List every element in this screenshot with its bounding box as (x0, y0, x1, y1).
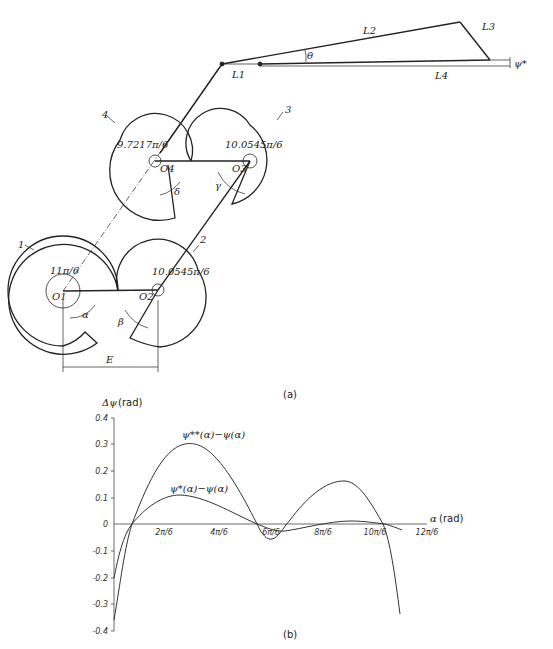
gear-1-angle: 11π/6 (50, 265, 80, 276)
gear-2-number: 2 (199, 234, 206, 245)
label-psi-star: ψ* (514, 58, 527, 69)
x-tick: 4π/6 (210, 528, 228, 537)
y-tick: -0.2 (92, 574, 108, 583)
gear-2-angle: 10.0545π/6 (152, 266, 210, 277)
y-tick: 0.4 (95, 414, 108, 423)
y-axis-unit: (rad) (118, 397, 142, 408)
label-E: E (105, 354, 114, 365)
y-axis-label: Δψ (101, 397, 117, 408)
y-tick-labels: 0.4 0.3 0.2 0.1 0 -0.1 -0.2 -0.3 -0.4 (92, 414, 108, 636)
center-O3: O3 (232, 163, 247, 174)
x-tick: 12π/6 (416, 528, 439, 537)
y-tick: -0.3 (92, 600, 108, 609)
gear-4-profile (110, 113, 193, 220)
gear-4-angle: 9.7217π/6 (117, 139, 169, 150)
label-theta: θ (307, 50, 313, 61)
y-tick: -0.1 (92, 547, 108, 556)
angle-gamma: γ (215, 180, 221, 191)
gear-3-number: 3 (285, 104, 291, 115)
y-tick: 0.1 (95, 494, 108, 503)
x-tick: 2π/6 (155, 528, 173, 537)
angle-beta: β (117, 316, 124, 327)
gear-4-number: 4 (101, 109, 108, 120)
x-axis-label: α (430, 513, 437, 524)
curve2-label: ψ*(α)−ψ(α) (170, 483, 228, 494)
label-L2: L2 (362, 25, 376, 36)
x-axis-unit: (rad) (439, 513, 463, 524)
y-tick: 0 (103, 520, 108, 529)
center-O2: O2 (139, 291, 154, 302)
y-tick: 0.3 (95, 440, 108, 449)
angle-alpha: α (82, 309, 89, 320)
curve1-label: ψ**(α)−ψ(α) (182, 429, 245, 440)
caption-b: (b) (283, 629, 297, 640)
x-tick: 10π/6 (364, 528, 387, 537)
caption-a: (a) (283, 389, 297, 400)
mechanism-labels: L2 L3 L1 L4 θ ψ* 1 2 3 4 11π/6 10.0545π/… (18, 21, 527, 400)
y-tick: -0.4 (92, 627, 108, 636)
center-O4: O4 (160, 163, 175, 174)
figure-canvas: L2 L3 L1 L4 θ ψ* 1 2 3 4 11π/6 10.0545π/… (0, 0, 553, 649)
label-L3: L3 (481, 21, 495, 32)
gear-2-profile (117, 239, 206, 347)
link-L2 (222, 22, 460, 64)
center-O1: O1 (52, 291, 67, 302)
x-tick: 8π/6 (314, 528, 332, 537)
gear-3-angle: 10.0545π/6 (225, 139, 283, 150)
angle-delta: δ (174, 186, 180, 197)
label-L4: L4 (434, 70, 448, 81)
gear-1-number: 1 (18, 239, 24, 250)
chart: 0.4 0.3 0.2 0.1 0 -0.1 -0.2 -0.3 -0.4 2π… (92, 397, 463, 640)
y-tick: 0.2 (95, 467, 108, 476)
label-L1: L1 (231, 69, 245, 80)
link-L4 (260, 60, 490, 64)
